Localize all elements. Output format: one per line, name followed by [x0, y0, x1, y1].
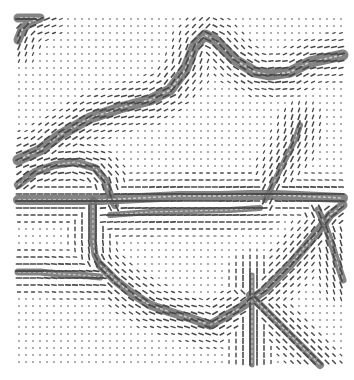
vector-dash	[65, 159, 71, 160]
vector-dot	[137, 60, 139, 62]
vector-dash	[51, 278, 57, 279]
vector-dot	[256, 130, 258, 132]
vector-dot	[144, 46, 146, 48]
vector-dot	[165, 32, 167, 34]
vector-dot	[95, 305, 97, 307]
vector-dot	[221, 123, 223, 125]
vector-dot	[137, 249, 139, 251]
vector-dot	[116, 347, 118, 349]
vector-dot	[214, 361, 216, 363]
vector-dot	[32, 312, 34, 314]
vector-dot	[207, 256, 209, 258]
vector-dot	[172, 18, 174, 20]
vector-dash	[320, 277, 321, 280]
vector-dot	[67, 88, 69, 90]
vector-dot	[326, 88, 328, 90]
vector-dot	[109, 25, 111, 27]
vector-dot	[25, 354, 27, 356]
vector-dot	[144, 249, 146, 251]
vector-dot	[158, 340, 160, 342]
vector-dot	[326, 319, 328, 321]
vector-dot	[340, 137, 342, 139]
vector-dot	[130, 333, 132, 335]
vector-dash	[338, 53, 344, 54]
vector-dot	[193, 270, 195, 272]
vector-dot	[263, 109, 265, 111]
vector-dot	[46, 347, 48, 349]
vector-dot	[165, 123, 167, 125]
vector-dot	[340, 109, 342, 111]
vector-dot	[340, 151, 342, 153]
vector-dash	[82, 255, 83, 259]
vector-dot	[172, 130, 174, 132]
vector-dot	[186, 270, 188, 272]
vector-dot	[123, 46, 125, 48]
vector-dot	[242, 116, 244, 118]
vector-dot	[39, 74, 41, 76]
vector-dot	[263, 18, 265, 20]
vector-dot	[249, 25, 251, 27]
vector-dot	[186, 158, 188, 160]
vector-dot	[207, 249, 209, 251]
vector-dash	[89, 254, 90, 259]
vector-dot	[179, 130, 181, 132]
vector-dot	[165, 18, 167, 20]
vector-dot	[179, 123, 181, 125]
vector-dot	[312, 32, 314, 34]
vector-dot	[319, 25, 321, 27]
vector-dot	[81, 326, 83, 328]
vector-dot	[18, 319, 20, 321]
vector-dash	[283, 89, 287, 90]
vector-dash	[254, 74, 260, 75]
vector-dot	[109, 354, 111, 356]
vector-dash	[341, 298, 342, 301]
vector-dot	[249, 109, 251, 111]
vector-dash	[269, 61, 273, 62]
vector-dot	[305, 312, 307, 314]
vector-dot	[116, 151, 118, 153]
vector-dot	[235, 158, 237, 160]
vector-dash	[93, 271, 99, 272]
vector-dot	[67, 39, 69, 41]
vector-dash	[319, 40, 322, 41]
vector-dot	[214, 263, 216, 265]
vector-dot	[18, 235, 20, 237]
vector-dot	[81, 305, 83, 307]
vector-dot	[130, 158, 132, 160]
vector-dot	[123, 67, 125, 69]
vector-dot	[39, 235, 41, 237]
vector-dot	[130, 340, 132, 342]
vector-dash	[158, 124, 160, 125]
vector-dot	[32, 354, 34, 356]
vector-dot	[277, 228, 279, 230]
vector-dot	[123, 158, 125, 160]
vector-dot	[333, 151, 335, 153]
vector-dot	[340, 347, 342, 349]
vector-dot	[25, 347, 27, 349]
vector-dot	[284, 228, 286, 230]
vector-dot	[312, 319, 314, 321]
vector-dot	[151, 165, 153, 167]
vector-dash	[317, 53, 322, 54]
vector-dot	[186, 354, 188, 356]
vector-dot	[81, 53, 83, 55]
vector-dot	[340, 340, 342, 342]
vector-dot	[116, 53, 118, 55]
vector-dot	[221, 242, 223, 244]
vector-dot	[214, 109, 216, 111]
vector-dash	[116, 82, 118, 83]
vector-dot	[193, 242, 195, 244]
vector-dash	[95, 145, 98, 146]
vector-dash	[268, 75, 274, 76]
vector-dot	[25, 305, 27, 307]
vector-dot	[46, 319, 48, 321]
vector-dot	[284, 102, 286, 104]
vector-dot	[305, 291, 307, 293]
vector-dot	[67, 361, 69, 363]
vector-dot	[270, 235, 272, 237]
vector-dot	[88, 333, 90, 335]
vector-dash	[33, 60, 34, 62]
vector-dot	[130, 67, 132, 69]
vector-dash	[179, 292, 182, 293]
vector-dot	[109, 361, 111, 363]
